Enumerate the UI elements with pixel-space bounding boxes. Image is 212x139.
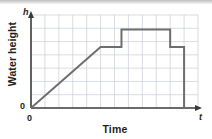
x-axis-arrow-icon [195,105,202,111]
x-axis-label: Time [60,123,170,135]
water-height-time-chart: Water height Time h t 0 0 [0,0,212,139]
x-axis-symbol: t [199,112,202,122]
y-axis-symbol: h [23,7,29,17]
y-axis-label: Water height [6,18,18,90]
y-origin-tick-label: 0 [20,101,25,111]
x-origin-tick-label: 0 [27,113,32,123]
